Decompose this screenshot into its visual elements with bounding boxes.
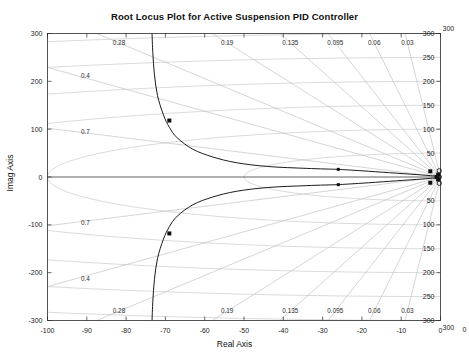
x-tick-label--50: -50 <box>239 327 249 334</box>
y-axis-label: Imag Axis <box>5 133 15 213</box>
damping-label-bottom-0.28: 0.28 <box>113 307 126 314</box>
freq-label-lower-50: 50 <box>427 197 435 204</box>
branch-endpoint-0 <box>337 168 340 171</box>
plot-canvas: -100-90-80-70-60-50-40-30-20-100-300-200… <box>0 0 469 360</box>
freq-label-upper-150: 150 <box>423 102 435 109</box>
damping-label-top-0.06: 0.06 <box>368 39 381 46</box>
pole-marker-0 <box>167 119 171 123</box>
y-tick-label--300: -300 <box>28 317 42 324</box>
y-tick-label-200: 200 <box>31 78 43 85</box>
x-axis-label: Real Axis <box>0 339 469 349</box>
x-tick-label-origin-outer: 0 <box>463 326 467 333</box>
x-tick-label--80: -80 <box>121 327 131 334</box>
freq-label-lower-100: 100 <box>423 221 435 228</box>
freq-label-corner-bottom: 300 <box>443 324 455 331</box>
clipped-top-artifact <box>0 0 469 7</box>
damping-label-left-upper-0.7: 0.7 <box>81 128 90 135</box>
damping-label-top-0.095: 0.095 <box>327 39 343 46</box>
pole-marker-3 <box>428 181 432 185</box>
freq-label-lower-150: 150 <box>423 245 435 252</box>
x-tick-label--40: -40 <box>278 327 288 334</box>
freq-label-lower-200: 200 <box>423 269 435 276</box>
root-locus-figure: Root Locus Plot for Active Suspension PI… <box>0 0 469 360</box>
freq-label-upper-50: 50 <box>427 150 435 157</box>
pole-marker-1 <box>167 231 171 235</box>
damping-label-bottom-0.06: 0.06 <box>368 307 381 314</box>
damping-label-top-0.03: 0.03 <box>401 39 414 46</box>
x-tick-label--90: -90 <box>82 327 92 334</box>
y-tick-label--200: -200 <box>28 269 42 276</box>
y-tick-label-100: 100 <box>31 126 43 133</box>
pole-marker-2 <box>428 169 432 173</box>
y-tick-label-300: 300 <box>31 30 43 37</box>
freq-label-lower-250: 250 <box>423 293 435 300</box>
x-tick-label--30: -30 <box>318 327 328 334</box>
damping-label-top-0.28: 0.28 <box>113 39 126 46</box>
y-tick-label-0: 0 <box>39 174 43 181</box>
damping-ray-0.4-lower <box>48 177 441 287</box>
freq-label-upper-250: 250 <box>423 54 435 61</box>
damping-label-bottom-0.19: 0.19 <box>221 307 234 314</box>
freq-label-upper-200: 200 <box>423 78 435 85</box>
branch-endpoint-1 <box>337 183 340 186</box>
damping-label-left-lower-0.4: 0.4 <box>81 275 90 282</box>
damping-label-bottom-0.03: 0.03 <box>401 307 414 314</box>
damping-label-top-0.19: 0.19 <box>221 39 234 46</box>
damping-label-left-lower-0.7: 0.7 <box>81 219 90 226</box>
freq-label-corner-top: 300 <box>443 25 455 32</box>
freq-label-lower-300: 300 <box>423 317 435 324</box>
freq-label-upper-100: 100 <box>423 126 435 133</box>
damping-label-left-upper-0.4: 0.4 <box>81 72 90 79</box>
y-tick-label--100: -100 <box>28 221 42 228</box>
freq-label-upper-300: 300 <box>423 30 435 37</box>
x-tick-label--10: -10 <box>396 327 406 334</box>
x-tick-label--60: -60 <box>200 327 210 334</box>
x-tick-label--70: -70 <box>160 327 170 334</box>
x-tick-label--100: -100 <box>40 327 54 334</box>
page-title: Root Locus Plot for Active Suspension PI… <box>0 11 469 22</box>
x-tick-label--20: -20 <box>357 327 367 334</box>
damping-ray-0.4-upper <box>48 67 441 177</box>
damping-label-bottom-0.095: 0.095 <box>327 307 343 314</box>
damping-label-bottom-0.135: 0.135 <box>282 307 298 314</box>
damping-label-top-0.135: 0.135 <box>282 39 298 46</box>
